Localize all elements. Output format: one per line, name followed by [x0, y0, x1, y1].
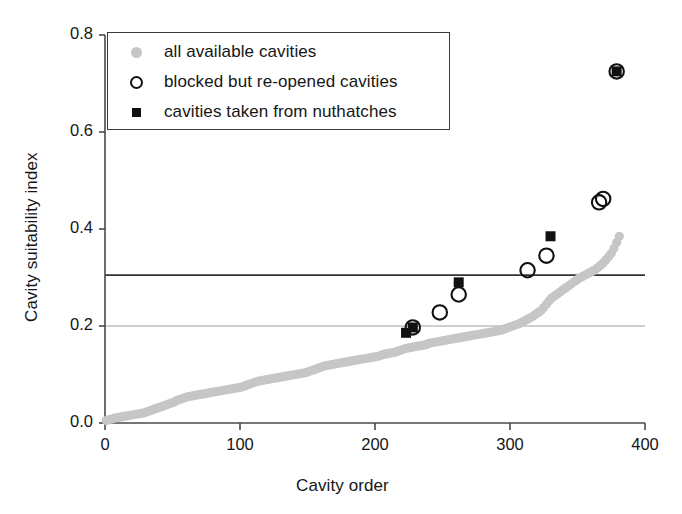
data-point	[596, 192, 610, 206]
filled-circle-icon	[108, 47, 164, 58]
y-tick-label: 0.0	[47, 412, 93, 431]
legend-item-blocked-reopened-cavities: blocked but re-opened cavities	[108, 67, 449, 97]
x-tick-label: 200	[345, 435, 405, 454]
data-point	[539, 248, 553, 262]
chart-figure: Cavity suitability index Cavity order 0.…	[0, 0, 682, 514]
series-all-available-cavities	[102, 232, 624, 426]
data-point	[433, 305, 447, 319]
x-axis-title: Cavity order	[296, 476, 389, 496]
y-tick-label: 0.6	[47, 121, 93, 140]
data-point	[454, 277, 464, 287]
legend-item-all-available-cavities: all available cavities	[108, 37, 449, 67]
legend-label: blocked but re-opened cavities	[164, 72, 398, 92]
data-point	[408, 322, 418, 332]
data-point	[546, 231, 556, 241]
legend-item-cavities-from-nuthatches: cavities taken from nuthatches	[108, 97, 449, 127]
data-point	[615, 232, 624, 241]
chart-legend: all available cavities blocked but re-op…	[107, 32, 450, 130]
y-tick-label: 0.8	[47, 24, 93, 43]
y-tick-label: 0.4	[47, 218, 93, 237]
x-tick-label: 400	[615, 435, 675, 454]
data-point	[612, 66, 622, 76]
data-point	[452, 287, 466, 301]
x-tick-label: 100	[210, 435, 270, 454]
legend-label: cavities taken from nuthatches	[164, 102, 397, 122]
data-point	[592, 195, 606, 209]
x-tick-label: 300	[480, 435, 540, 454]
filled-square-icon	[108, 108, 164, 117]
y-tick-label: 0.2	[47, 315, 93, 334]
reference-lines	[105, 275, 645, 326]
legend-label: all available cavities	[164, 42, 316, 62]
x-tick-label: 0	[75, 435, 135, 454]
open-circle-icon	[108, 76, 164, 89]
y-axis-title: Cavity suitability index	[22, 152, 42, 322]
